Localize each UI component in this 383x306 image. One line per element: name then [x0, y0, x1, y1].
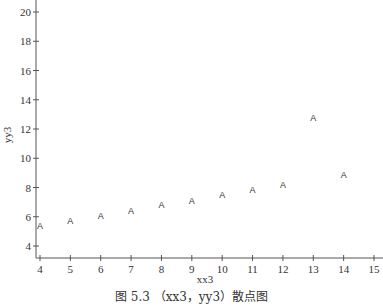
x-tick-label: 14	[338, 263, 350, 275]
data-point-marker: A	[158, 200, 164, 210]
data-point-marker: A	[128, 206, 134, 216]
y-tick-label: 20	[20, 6, 32, 18]
y-tick-label: 10	[20, 152, 32, 164]
x-tick-label: 12	[277, 263, 288, 275]
y-axis-label: yy3	[1, 126, 13, 143]
x-tick-label: 10	[217, 263, 229, 275]
x-tick-label: 4	[37, 263, 43, 275]
y-tick-label: 12	[20, 123, 31, 135]
y-tick-label: 18	[20, 35, 32, 47]
x-tick-label: 13	[308, 263, 320, 275]
y-tick-label: 6	[26, 211, 32, 223]
y-tick-label: 14	[20, 94, 32, 106]
data-point-marker: A	[280, 180, 286, 190]
x-tick-label: 8	[159, 263, 165, 275]
y-tick-label: 8	[26, 182, 32, 194]
data-point-marker: A	[310, 113, 316, 123]
figure-caption: 图 5.3 （xx3，yy3）散点图	[0, 287, 383, 304]
data-points: AAAAAAAAAAA	[37, 113, 347, 230]
axes: 468101214161820456789101112131415	[20, 0, 383, 275]
data-point-marker: A	[189, 196, 195, 206]
scatter-plot: 468101214161820456789101112131415 AAAAAA…	[0, 0, 383, 306]
x-tick-label: 7	[128, 263, 134, 275]
y-tick-label: 4	[26, 240, 32, 252]
data-point-marker: A	[219, 190, 225, 200]
data-point-marker: A	[341, 170, 347, 180]
x-tick-label: 6	[98, 263, 104, 275]
x-tick-label: 11	[247, 263, 258, 275]
x-axis-label: xx3	[197, 273, 214, 285]
x-tick-label: 15	[369, 263, 381, 275]
data-point-marker: A	[37, 221, 43, 231]
data-point-marker: A	[67, 216, 73, 226]
x-tick-label: 5	[68, 263, 74, 275]
y-tick-label: 16	[20, 65, 32, 77]
x-tick-label: 9	[189, 263, 195, 275]
data-point-marker: A	[98, 211, 104, 221]
data-point-marker: A	[250, 185, 256, 195]
